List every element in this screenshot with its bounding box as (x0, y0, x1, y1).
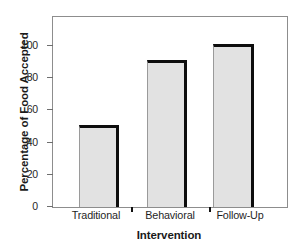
y-tick-20: 20 (47, 174, 53, 175)
y-tick-80: 80 (47, 77, 53, 78)
y-tick-label-100: 100 (21, 39, 38, 51)
bar-follow-up (213, 44, 254, 207)
bar-behavioral (147, 60, 187, 207)
bar-chart-figure: Percentage of Food Accepted 0 20 40 60 8… (0, 0, 299, 248)
y-tick-40: 40 (47, 142, 53, 143)
bar-traditional (79, 125, 119, 207)
y-tick-label-80: 80 (27, 71, 38, 83)
y-tick-label-60: 60 (27, 103, 38, 115)
y-tick-label-0: 0 (32, 200, 38, 212)
y-tick-60: 60 (47, 109, 53, 110)
x-axis-title: Intervention (52, 229, 286, 241)
y-tick-label-40: 40 (27, 136, 38, 148)
y-tick-label-20: 20 (27, 168, 38, 180)
y-tick-0: 0 (47, 206, 53, 207)
y-tick-100: 100 (47, 45, 53, 46)
x-category-label-follow-up: Follow-Up (194, 209, 286, 221)
plot-frame: 0 20 40 60 80 100 (52, 16, 288, 208)
plot-area: 0 20 40 60 80 100 (53, 17, 287, 207)
